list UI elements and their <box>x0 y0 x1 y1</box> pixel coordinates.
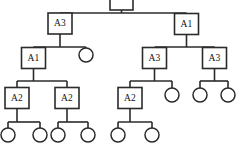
node-square-shape <box>110 0 133 10</box>
node-label: A2 <box>11 93 23 103</box>
node-circle-shape <box>1 128 15 142</box>
tree-leaf-node[interactable] <box>111 128 125 142</box>
tree-leaf-node[interactable] <box>145 128 159 142</box>
node-circle-shape <box>165 88 179 102</box>
tree-node-a1[interactable]: A1 <box>22 48 46 69</box>
tree-node-a1[interactable]: A1 <box>175 14 199 35</box>
node-label: A3 <box>148 53 160 63</box>
tree-leaf-node[interactable] <box>79 48 93 62</box>
node-circle-shape <box>145 128 159 142</box>
tree-leaf-node[interactable] <box>221 88 235 102</box>
node-label: A1 <box>27 53 39 63</box>
node-circle-shape <box>51 128 65 142</box>
node-label: A3 <box>54 18 66 28</box>
tree-diagram: A3A1A1A3A3A2A2A2 <box>0 0 237 150</box>
tree-node-a3[interactable]: A3 <box>48 13 72 34</box>
tree-leaf-node[interactable] <box>110 0 133 10</box>
node-circle-shape <box>33 128 47 142</box>
tree-leaf-node[interactable] <box>165 88 179 102</box>
tree-leaf-node[interactable] <box>193 88 207 102</box>
node-label: A1 <box>180 19 192 29</box>
node-circle-shape <box>81 128 95 142</box>
tree-diagram-canvas: A3A1A1A3A3A2A2A2 <box>0 0 237 150</box>
tree-node-a3[interactable]: A3 <box>143 48 167 69</box>
tree-node-a2[interactable]: A2 <box>118 88 142 109</box>
node-circle-shape <box>79 48 93 62</box>
node-label: A2 <box>61 93 73 103</box>
tree-node-a2[interactable]: A2 <box>55 88 79 109</box>
tree-node-a3[interactable]: A3 <box>203 48 227 69</box>
node-label: A2 <box>124 93 136 103</box>
tree-leaf-node[interactable] <box>33 128 47 142</box>
node-layer: A3A1A1A3A3A2A2A2 <box>1 0 235 142</box>
tree-leaf-node[interactable] <box>81 128 95 142</box>
tree-leaf-node[interactable] <box>1 128 15 142</box>
node-circle-shape <box>193 88 207 102</box>
tree-node-a2[interactable]: A2 <box>5 88 29 109</box>
node-circle-shape <box>111 128 125 142</box>
node-circle-shape <box>221 88 235 102</box>
tree-leaf-node[interactable] <box>51 128 65 142</box>
node-label: A3 <box>208 53 220 63</box>
